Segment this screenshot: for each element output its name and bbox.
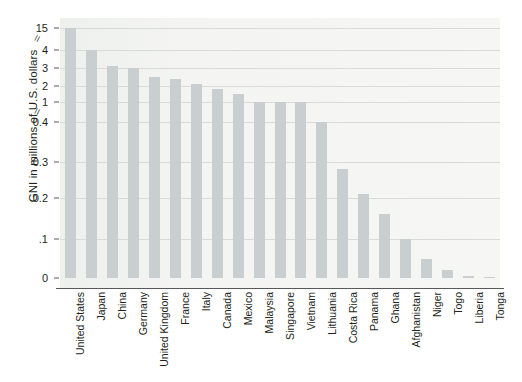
x-tick-label: Mexico: [242, 292, 254, 325]
bar: [484, 277, 495, 278]
x-axis-line: [56, 288, 504, 289]
bar: [212, 89, 223, 278]
bar: [316, 122, 327, 278]
bar: [295, 102, 306, 278]
y-tick-label: 3: [42, 62, 48, 74]
bar: [421, 259, 432, 279]
y-tick-mark: [54, 198, 59, 199]
y-tick-label: 15: [36, 22, 48, 34]
x-tick-label: France: [179, 292, 191, 325]
x-tick-label: Costa Rica: [347, 292, 359, 343]
bar: [463, 276, 474, 278]
bar: [275, 102, 286, 278]
bar: [379, 214, 390, 278]
x-tick-label: Japan: [95, 292, 107, 321]
plot-area: [60, 18, 500, 288]
x-tick-label: Malaysia: [263, 292, 275, 333]
x-tick-label: Panama: [368, 292, 380, 331]
y-tick-label: 1: [42, 96, 48, 108]
y-tick-mark: [54, 50, 59, 51]
bar: [107, 66, 118, 278]
x-tick-label: Germany: [137, 292, 149, 335]
bar: [65, 28, 76, 278]
x-tick-label: Lithuania: [326, 292, 338, 335]
bar: [149, 77, 160, 278]
bar: [358, 194, 369, 278]
bar: [442, 270, 453, 278]
bar: [86, 50, 97, 278]
y-tick-mark: [54, 102, 59, 103]
x-tick-label: Niger: [431, 292, 443, 317]
y-tick-label: 4: [42, 44, 48, 56]
x-tick-label: Italy: [200, 292, 212, 311]
y-tick-label: 0: [42, 272, 48, 284]
bar: [191, 84, 202, 278]
x-tick-label: Tonga: [494, 292, 506, 321]
x-tick-label: Afghanistan: [410, 292, 422, 347]
y-tick-label: 0.2: [33, 192, 48, 204]
bar-series: [60, 18, 500, 288]
y-tick-mark: [54, 68, 59, 69]
bar: [233, 94, 244, 278]
bar: [400, 239, 411, 278]
x-tick-label: Liberia: [473, 292, 485, 324]
y-tick-label: .1: [39, 233, 48, 245]
y-tick-mark: [54, 86, 59, 87]
bar: [128, 68, 139, 278]
chart-figure: GNI in millions of U.S. dollars 1543210.…: [0, 0, 522, 382]
axis-break-marker: =: [29, 32, 46, 45]
x-tick-label: United Kingdom: [158, 292, 170, 367]
bar: [254, 102, 265, 278]
x-tick-label: Ghana: [389, 292, 401, 324]
y-tick-mark: [54, 162, 59, 163]
x-tick-label: United States: [74, 292, 86, 355]
x-tick-label: Canada: [221, 292, 233, 329]
bar: [337, 169, 348, 278]
y-tick-mark: [54, 278, 59, 279]
x-tick-label: Vietnam: [305, 292, 317, 330]
x-tick-label: Togo: [452, 292, 464, 315]
y-tick-mark: [54, 122, 59, 123]
y-tick-label: 0.3: [33, 156, 48, 168]
y-tick-mark: [54, 239, 59, 240]
y-axis-ticks: 1543210.40.30.2.10==: [0, 0, 54, 382]
x-axis-labels: United StatesJapanChinaGermanyUnited Kin…: [60, 292, 500, 382]
y-tick-mark: [54, 28, 59, 29]
y-tick-label: 2: [42, 80, 48, 92]
x-tick-label: China: [116, 292, 128, 319]
x-tick-label: Singapore: [284, 292, 296, 340]
bar: [170, 79, 181, 278]
